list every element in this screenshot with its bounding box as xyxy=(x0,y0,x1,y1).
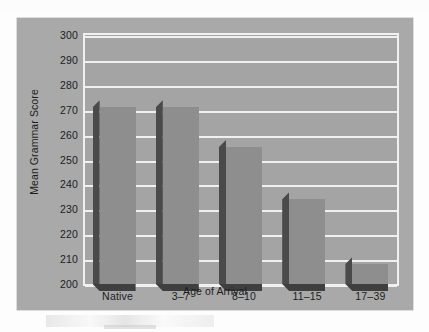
scan-artifact-smudge-secondary xyxy=(104,325,156,329)
y-axis-tick-labels: 300290280270260250240230220210200 xyxy=(17,18,83,271)
y-axis-tick-label: 280 xyxy=(60,80,78,91)
bar-side-face xyxy=(282,192,289,284)
bar-side-face xyxy=(156,100,163,284)
bar-front-face xyxy=(163,107,199,284)
bars-layer xyxy=(83,33,399,286)
scanned-page: Mean Grammar Score 300290280270260250240… xyxy=(0,0,429,332)
y-axis-tick-label: 250 xyxy=(60,154,78,165)
bar-front-face xyxy=(289,199,325,284)
y-axis-tick-label: 210 xyxy=(60,254,78,265)
bar-side-face xyxy=(93,100,100,284)
figure-panel: Mean Grammar Score 300290280270260250240… xyxy=(17,18,413,310)
bar-side-face xyxy=(345,257,352,284)
y-axis-tick-label: 240 xyxy=(60,179,78,190)
bar-front-face xyxy=(352,264,388,284)
bar-side-face xyxy=(219,140,226,284)
bar xyxy=(289,199,325,284)
y-axis-tick-label: 290 xyxy=(60,55,78,66)
x-axis-title: Age of Arrival xyxy=(17,285,413,297)
bar xyxy=(226,147,262,284)
bar-front-face xyxy=(100,107,136,284)
bar-front-face xyxy=(226,147,262,284)
y-axis-tick-label: 220 xyxy=(60,229,78,240)
y-axis-tick-label: 300 xyxy=(60,30,78,41)
y-axis-tick-label: 270 xyxy=(60,104,78,115)
y-axis-tick-label: 230 xyxy=(60,204,78,215)
y-axis-tick-label: 260 xyxy=(60,129,78,140)
bar xyxy=(352,264,388,284)
bar xyxy=(100,107,136,284)
scan-artifact-top xyxy=(0,0,429,14)
bar xyxy=(163,107,199,284)
